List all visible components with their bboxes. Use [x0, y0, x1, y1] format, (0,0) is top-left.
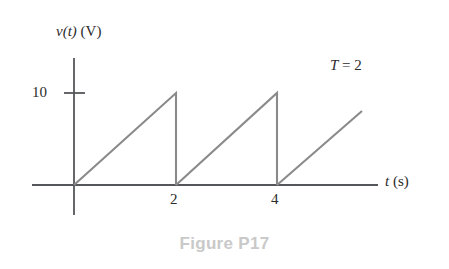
y-tick-label-10: 10 — [32, 85, 47, 100]
x-tick-label-4: 4 — [271, 192, 279, 207]
period-symbol: T — [330, 57, 338, 73]
waveform-ramp-1 — [74, 93, 176, 185]
x-axis-label: t (s) — [385, 174, 409, 189]
sawtooth-plot — [0, 0, 449, 269]
x-axis-label-unit: (s) — [393, 173, 409, 189]
y-axis-label-unit: (V) — [81, 23, 102, 39]
period-value: = 2 — [342, 57, 362, 73]
figure-caption: Figure P17 — [0, 235, 449, 252]
period-annotation: T = 2 — [330, 58, 362, 73]
x-axis-label-var: t — [385, 173, 389, 189]
x-tick-label-2: 2 — [170, 192, 178, 207]
y-axis-label: v(t) (V) — [56, 24, 101, 39]
waveform-ramp-2 — [176, 93, 277, 185]
y-axis-label-var: v — [56, 23, 63, 39]
y-axis-label-arg: (t) — [63, 23, 77, 39]
figure-container: v(t) (V) 10 T = 2 t (s) 2 4 Figure P17 — [0, 0, 449, 269]
waveform-ramp-3 — [277, 111, 362, 185]
